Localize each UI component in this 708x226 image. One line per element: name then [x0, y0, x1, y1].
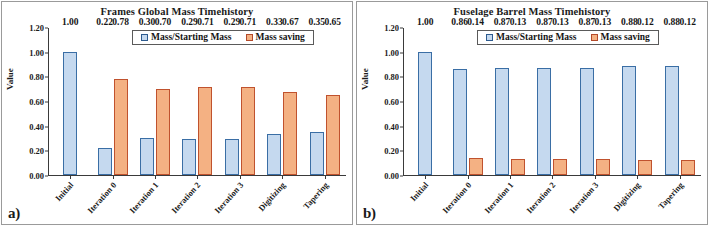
plot-area: 0.000.200.400.600.801.001.20 1.000.860.1…: [403, 28, 701, 176]
chart-panel-b: Fuselage Barrel Mass Timehistory Value M…: [356, 1, 708, 225]
bar-mass-starting-mass[interactable]: 0.22: [98, 148, 112, 175]
chart-legend: Mass/Starting Mass Mass saving: [132, 30, 314, 45]
y-axis-tick-label: 0.20: [384, 146, 399, 156]
bar-column: 0.87: [495, 28, 509, 175]
x-axis-label-cell: Iteration 0: [446, 178, 488, 224]
legend-label: Mass/Starting Mass: [496, 32, 577, 42]
bar-value-label: 0.67: [282, 17, 299, 27]
bar-value-label: 0.30: [139, 17, 156, 27]
bar-value-label: 0.14: [467, 17, 484, 27]
bar-value-label: 0.71: [240, 17, 257, 27]
bar-group: 0.880.12: [616, 28, 658, 175]
bar-value-label: 0.33: [266, 17, 283, 27]
x-axis-tick-label-text: Digitizing: [257, 180, 288, 213]
x-axis-label-cell: Iteration 1: [489, 178, 531, 224]
bar-value-label: 1.00: [62, 17, 79, 27]
bar-column: 0.30: [140, 28, 154, 175]
x-axis-label-cell: Iteration 1: [134, 178, 176, 224]
y-axis-tick-mark: [45, 77, 48, 78]
y-axis-tick-label: 0.60: [29, 97, 44, 107]
bar-column: 0.33: [267, 28, 281, 175]
bar-value-label: 0.71: [197, 17, 214, 27]
bar-value-label: 0.13: [510, 17, 527, 27]
bar-column: 0.87: [537, 28, 551, 175]
legend-label: Mass/Starting Mass: [151, 32, 232, 42]
bar-column: 0.29: [225, 28, 239, 175]
bar-group: 1.00: [49, 28, 91, 175]
x-axis-label-cell: Digitizing: [616, 178, 658, 224]
y-axis-tick-mark: [400, 28, 403, 29]
y-axis-tick-label: 0.40: [29, 122, 44, 132]
bar-mass-starting-mass[interactable]: 1.00: [418, 52, 432, 175]
bar-groups: 1.000.860.140.870.130.870.130.870.130.88…: [404, 28, 701, 175]
bar-mass-saving[interactable]: 0.78: [114, 79, 128, 175]
x-axis-tick-label-text: Tapering: [656, 180, 685, 211]
legend-label: Mass saving: [256, 32, 305, 42]
legend-item-mass-starting-mass: Mass/Starting Mass: [486, 32, 577, 42]
bar-groups: 1.000.220.780.300.700.290.710.290.710.33…: [49, 28, 346, 175]
bar-value-label: 0.13: [595, 17, 612, 27]
bar-value-label: 0.87: [494, 17, 511, 27]
bar-group: 1.00: [404, 28, 446, 175]
chart-title: Frames Global Mass Timehistory: [2, 6, 352, 17]
chart-legend: Mass/Starting Mass Mass saving: [477, 30, 659, 45]
y-axis-tick-mark: [400, 102, 403, 103]
plot-area: 0.000.200.400.600.801.001.20 1.000.220.7…: [48, 28, 346, 176]
bar-group: 0.860.14: [446, 28, 488, 175]
bar-value-label: 0.13: [552, 17, 569, 27]
bar-column: 0.71: [241, 28, 255, 175]
x-axis-labels: InitialIteration 0Iteration 1Iteration 2…: [404, 178, 701, 224]
bar-mass-starting-mass[interactable]: 0.33: [267, 134, 281, 175]
legend-item-mass-saving: Mass saving: [591, 32, 650, 42]
bar-group: 0.290.71: [219, 28, 261, 175]
bar-mass-starting-mass[interactable]: 1.00: [63, 52, 77, 175]
legend-swatch-orange-icon: [591, 34, 598, 41]
bar-value-label: 0.65: [324, 17, 341, 27]
bar-group: 0.290.71: [176, 28, 218, 175]
bar-group: 0.220.78: [91, 28, 133, 175]
bar-column: 1.00: [63, 28, 77, 175]
bar-group: 0.880.12: [659, 28, 701, 175]
y-axis-tick-mark: [400, 151, 403, 152]
bar-group: 0.350.65: [304, 28, 346, 175]
y-axis-tick-label: 0.20: [29, 146, 44, 156]
bar-column: 0.67: [283, 28, 297, 175]
x-axis-label-cell: Iteration 2: [531, 178, 573, 224]
legend-label: Mass saving: [601, 32, 650, 42]
x-axis-label-cell: Iteration 3: [574, 178, 616, 224]
bar-mass-starting-mass[interactable]: 0.35: [310, 132, 324, 175]
bar-column: 0.12: [638, 28, 652, 175]
bar-column: 0.13: [511, 28, 525, 175]
bar-column: 0.88: [665, 28, 679, 175]
bar-column: 0.29: [182, 28, 196, 175]
bar-mass-starting-mass[interactable]: 0.86: [453, 69, 467, 175]
bar-column: 0.87: [580, 28, 594, 175]
bar-group: 0.300.70: [134, 28, 176, 175]
y-axis-tick-label: 1.20: [384, 23, 399, 33]
x-axis-label-cell: Digitizing: [261, 178, 303, 224]
y-axis-tick-mark: [400, 52, 403, 53]
panel-label-b: b): [363, 205, 376, 222]
bar-mass-starting-mass[interactable]: 0.88: [665, 66, 679, 175]
bar-value-label: 0.70: [155, 17, 172, 27]
y-axis-tick-mark: [45, 151, 48, 152]
y-axis-label: Value: [5, 76, 15, 90]
y-axis-tick-label: 1.00: [384, 48, 399, 58]
x-axis-label-cell: Tapering: [304, 178, 346, 224]
bar-value-label: 0.88: [621, 17, 638, 27]
bar-value-label: 0.22: [96, 17, 113, 27]
y-axis-tick-mark: [400, 77, 403, 78]
legend-swatch-blue-icon: [486, 34, 493, 41]
y-axis-tick-label: 0.60: [384, 97, 399, 107]
bar-value-label: 0.78: [112, 17, 129, 27]
bar-value-label: 0.86: [451, 17, 468, 27]
y-axis-tick-mark: [45, 176, 48, 177]
x-axis-tick-label-text: Tapering: [301, 180, 330, 211]
y-axis-tick-mark: [45, 126, 48, 127]
bar-column: 0.78: [114, 28, 128, 175]
y-axis-tick-label: 1.20: [29, 23, 44, 33]
y-axis-label: Value: [360, 76, 370, 90]
y-axis-tick-mark: [400, 126, 403, 127]
bar-column: 0.22: [98, 28, 112, 175]
bar-value-label: 0.87: [536, 17, 553, 27]
